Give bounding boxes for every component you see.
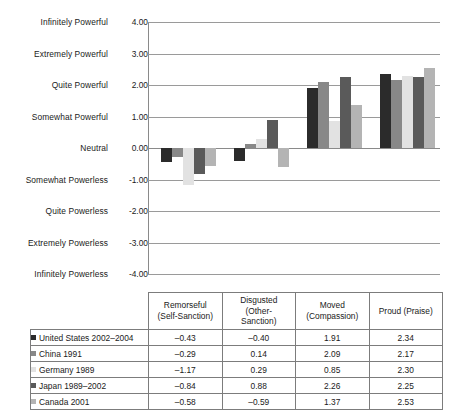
table-cell-value: 0.85 xyxy=(296,362,370,378)
bar xyxy=(234,148,245,161)
y-axis-tick-name: Quite Powerful xyxy=(52,80,108,90)
y-axis-tick: Somewhat Powerful1.00 xyxy=(0,111,148,123)
y-axis-tick-value: 2.00 xyxy=(115,80,148,90)
y-axis-tick-value: -2.00 xyxy=(115,206,148,216)
plot-area xyxy=(148,22,440,274)
y-axis-tick: Neutral0.00 xyxy=(0,142,148,154)
y-axis-tick-name: Quite Powerless xyxy=(46,206,108,216)
table-cell-value: 1.37 xyxy=(296,394,370,410)
bar xyxy=(351,105,362,148)
y-axis-tick-name: Extremely Powerless xyxy=(28,238,108,248)
y-axis-tick: Quite Powerless-2.00 xyxy=(0,205,148,217)
table-column-header: Disgusted(Other-Sanction) xyxy=(222,293,296,330)
gridline xyxy=(148,274,440,275)
table-cell-value: 0.14 xyxy=(222,346,296,362)
bar xyxy=(245,144,256,148)
table-cell-value: 2.09 xyxy=(296,346,370,362)
table-body: United States 2002–2004–0.43–0.401.912.3… xyxy=(31,330,443,410)
table-cell-value: 2.53 xyxy=(369,394,443,410)
bar xyxy=(278,148,289,167)
figure: Infinitely Powerful4.00Extremely Powerfu… xyxy=(0,0,455,419)
table-row-label: Canada 2001 xyxy=(31,394,149,410)
table-cell-value: 2.34 xyxy=(369,330,443,346)
y-axis-tick-value: 3.00 xyxy=(115,49,148,59)
y-axis-tick-name: Extremely Powerful xyxy=(34,49,108,59)
legend-swatch-icon xyxy=(31,367,36,372)
legend-label: United States 2002–2004 xyxy=(39,333,134,343)
y-axis-tick-value: -3.00 xyxy=(115,238,148,248)
y-axis-tick-value: 4.00 xyxy=(115,17,148,27)
bar xyxy=(391,80,402,148)
table-row: China 1991–0.290.142.092.17 xyxy=(31,346,443,362)
y-axis-tick: Infinitely Powerless-4.00 xyxy=(0,268,148,280)
bar xyxy=(267,120,278,148)
y-axis-tick: Infinitely Powerful4.00 xyxy=(0,16,148,28)
bar xyxy=(256,139,267,148)
table-cell-value: 2.25 xyxy=(369,378,443,394)
table-row: Germany 1989–1.170.290.852.30 xyxy=(31,362,443,378)
y-axis-tick-name: Somewhat Powerful xyxy=(32,112,108,122)
table-head: Remorseful(Self-Sanction)Disgusted(Other… xyxy=(31,293,443,330)
legend-label: Canada 2001 xyxy=(39,397,89,407)
y-axis-tick-value: -4.00 xyxy=(115,269,148,279)
y-axis-tick-name: Infinitely Powerless xyxy=(34,269,108,279)
table-cell-value: –0.43 xyxy=(149,330,223,346)
table-cell-value: 1.91 xyxy=(296,330,370,346)
bars-layer xyxy=(148,22,440,274)
table-row-label: Japan 1989–2002 xyxy=(31,378,149,394)
y-axis-tick: Quite Powerful2.00 xyxy=(0,79,148,91)
table-header-row: Remorseful(Self-Sanction)Disgusted(Other… xyxy=(31,293,443,330)
table-cell-value: 2.17 xyxy=(369,346,443,362)
legend-swatch-icon xyxy=(31,335,36,340)
table-row-label: Germany 1989 xyxy=(31,362,149,378)
data-table: Remorseful(Self-Sanction)Disgusted(Other… xyxy=(30,292,443,410)
y-axis-tick-value: 1.00 xyxy=(115,112,148,122)
y-axis-tick: Somewhat Powerless-1.00 xyxy=(0,174,148,186)
table-corner-cell xyxy=(31,293,149,330)
bar xyxy=(329,121,340,148)
bar-chart: Infinitely Powerful4.00Extremely Powerfu… xyxy=(0,0,455,292)
bar xyxy=(380,74,391,148)
legend-label: China 1991 xyxy=(39,349,82,359)
table-row: United States 2002–2004–0.43–0.401.912.3… xyxy=(31,330,443,346)
table-column-header: Proud (Praise) xyxy=(369,293,443,330)
table-cell-value: 2.26 xyxy=(296,378,370,394)
y-axis-tick-name: Somewhat Powerless xyxy=(26,175,108,185)
table-cell-value: 0.88 xyxy=(222,378,296,394)
legend-swatch-icon xyxy=(31,399,36,404)
table-cell-value: –0.29 xyxy=(149,346,223,362)
bar xyxy=(194,148,205,174)
table-cell-value: 2.30 xyxy=(369,362,443,378)
table-cell-value: –0.58 xyxy=(149,394,223,410)
table-cell-value: –1.17 xyxy=(149,362,223,378)
legend-swatch-icon xyxy=(31,383,36,388)
legend-label: Germany 1989 xyxy=(39,365,94,375)
bar xyxy=(205,148,216,166)
bar xyxy=(413,77,424,148)
table-cell-value: –0.59 xyxy=(222,394,296,410)
table-row-label: China 1991 xyxy=(31,346,149,362)
bar xyxy=(340,77,351,148)
y-axis-tick: Extremely Powerful3.00 xyxy=(0,48,148,60)
table-cell-value: 0.29 xyxy=(222,362,296,378)
y-axis-tick-value: -1.00 xyxy=(115,175,148,185)
table-row: Japan 1989–2002–0.840.882.262.25 xyxy=(31,378,443,394)
table-cell-value: –0.84 xyxy=(149,378,223,394)
table-row: Canada 2001–0.58–0.591.372.53 xyxy=(31,394,443,410)
table-column-header: Moved(Compassion) xyxy=(296,293,370,330)
bar xyxy=(183,148,194,185)
y-axis-tick: Extremely Powerless-3.00 xyxy=(0,237,148,249)
y-axis-labels: Infinitely Powerful4.00Extremely Powerfu… xyxy=(0,0,148,292)
table-column-header: Remorseful(Self-Sanction) xyxy=(149,293,223,330)
bar xyxy=(161,148,172,162)
bar xyxy=(402,76,413,148)
y-axis-tick-name: Neutral xyxy=(80,143,108,153)
bar xyxy=(424,68,435,148)
legend-swatch-icon xyxy=(31,351,36,356)
y-axis-tick-name: Infinitely Powerful xyxy=(40,17,108,27)
y-axis-tick-value: 0.00 xyxy=(115,143,148,153)
legend-label: Japan 1989–2002 xyxy=(39,381,106,391)
bar xyxy=(318,82,329,148)
bar xyxy=(172,148,183,157)
table-row-label: United States 2002–2004 xyxy=(31,330,149,346)
